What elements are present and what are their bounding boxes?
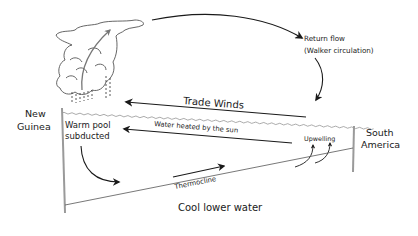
walker-circulation-label: (Walker circulation) <box>304 46 374 55</box>
return-flow-label: Return flow <box>304 34 345 43</box>
new-guinea-label-line1: New <box>25 108 46 119</box>
trade-winds-label: Trade Winds <box>182 95 245 111</box>
upwelling-label: Upwelling <box>304 135 335 143</box>
subduction-arrow <box>81 146 119 182</box>
walker-circulation-diagram: Return flow (Walker circulation) Trade W… <box>0 0 418 236</box>
south-america-label-line1: South <box>366 127 394 138</box>
thermocline-label: Thermocline <box>173 175 217 191</box>
east-boundary-wall <box>353 126 354 172</box>
return-flow-arrow <box>152 14 302 38</box>
cool-lower-water-label: Cool lower water <box>178 202 263 213</box>
new-guinea-label-line2: Guinea <box>17 121 51 132</box>
storm-cloud-icon <box>56 20 143 94</box>
upwelling-arrow-1 <box>295 145 313 167</box>
warm-pool-label-line2: subducted <box>65 131 110 141</box>
descending-arrow <box>315 58 323 100</box>
south-america-label-line2: America <box>361 139 400 150</box>
warm-pool-label-line1: Warm pool <box>65 120 111 130</box>
